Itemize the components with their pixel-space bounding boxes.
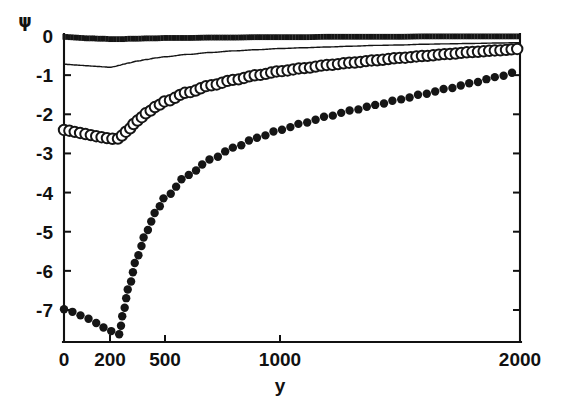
marker-dense-dot bbox=[252, 34, 255, 40]
marker-dense-dot bbox=[458, 33, 461, 39]
marker-dense-dot bbox=[452, 33, 455, 39]
marker-dense-dot bbox=[230, 35, 233, 41]
marker-filled-dot bbox=[198, 160, 206, 168]
marker-dense-dot bbox=[246, 34, 249, 40]
marker-dense-dot bbox=[203, 35, 206, 41]
marker-dense-dot bbox=[455, 33, 458, 39]
marker-dense-dot bbox=[371, 34, 374, 40]
marker-filled-dot bbox=[508, 69, 516, 77]
marker-dense-dot bbox=[79, 35, 82, 41]
marker-filled-dot bbox=[286, 123, 294, 131]
marker-dense-dot bbox=[421, 33, 424, 39]
marker-filled-dot bbox=[229, 143, 237, 151]
marker-filled-dot bbox=[245, 136, 253, 144]
marker-filled-dot bbox=[294, 120, 302, 128]
marker-dense-dot bbox=[377, 34, 380, 40]
marker-dense-dot bbox=[508, 33, 511, 39]
marker-dense-dot bbox=[119, 36, 122, 42]
marker-dense-dot bbox=[351, 34, 354, 40]
marker-dense-dot bbox=[105, 36, 108, 42]
marker-dense-dot bbox=[228, 35, 231, 41]
marker-filled-dot bbox=[414, 91, 422, 99]
marker-dense-dot bbox=[187, 35, 190, 41]
x-tick-label: 500 bbox=[149, 349, 181, 370]
marker-filled-dot bbox=[177, 175, 185, 183]
marker-dense-dot bbox=[138, 36, 141, 42]
y-tick-label: -5 bbox=[36, 222, 53, 243]
marker-dense-dot bbox=[244, 34, 247, 40]
marker-dense-dot bbox=[312, 34, 315, 40]
marker-filled-dot bbox=[345, 106, 353, 114]
marker-filled-dot bbox=[311, 116, 319, 124]
marker-dense-dot bbox=[491, 33, 494, 39]
marker-filled-dot bbox=[431, 87, 439, 95]
marker-dense-dot bbox=[419, 34, 422, 40]
marker-dense-dot bbox=[489, 33, 492, 39]
marker-dense-dot bbox=[87, 35, 90, 41]
marker-filled-dot bbox=[303, 118, 311, 126]
marker-filled-dot bbox=[491, 73, 499, 81]
x-tick-label: 2000 bbox=[499, 349, 541, 370]
marker-dense-dot bbox=[332, 34, 335, 40]
marker-dense-dot bbox=[238, 35, 241, 41]
marker-dense-dot bbox=[374, 34, 377, 40]
marker-dense-dot bbox=[236, 35, 239, 41]
marker-filled-dot bbox=[124, 285, 132, 293]
marker-dense-dot bbox=[323, 34, 326, 40]
marker-filled-dot bbox=[261, 131, 269, 139]
marker-dense-dot bbox=[166, 35, 169, 41]
marker-dense-dot bbox=[360, 34, 363, 40]
marker-dense-dot bbox=[111, 36, 114, 42]
chart-figure: 0-1-2-3-4-5-6-7020050010002000yψ bbox=[0, 0, 564, 406]
y-tick-label: -7 bbox=[36, 300, 53, 321]
marker-filled-dot bbox=[76, 311, 84, 319]
marker-filled-dot bbox=[127, 277, 135, 285]
marker-dense-dot bbox=[254, 34, 257, 40]
marker-dense-dot bbox=[241, 35, 244, 41]
marker-filled-dot bbox=[237, 141, 245, 149]
marker-dense-dot bbox=[103, 36, 106, 42]
marker-dense-dot bbox=[402, 34, 405, 40]
marker-filled-dot bbox=[99, 323, 107, 331]
marker-dense-dot bbox=[511, 33, 514, 39]
marker-dense-dot bbox=[337, 34, 340, 40]
marker-dense-dot bbox=[149, 35, 152, 41]
marker-filled-dot bbox=[388, 97, 396, 105]
marker-filled-dot bbox=[150, 209, 158, 217]
marker-filled-dot bbox=[269, 127, 277, 135]
marker-filled-dot bbox=[167, 190, 175, 198]
marker-dense-dot bbox=[357, 34, 360, 40]
marker-filled-dot bbox=[134, 251, 142, 259]
marker-dense-dot bbox=[477, 33, 480, 39]
marker-filled-dot bbox=[205, 155, 213, 163]
marker-dense-dot bbox=[396, 34, 399, 40]
marker-filled-dot bbox=[397, 95, 405, 103]
marker-dense-dot bbox=[84, 35, 87, 41]
marker-dense-dot bbox=[449, 33, 452, 39]
marker-dense-dot bbox=[298, 34, 301, 40]
marker-dense-dot bbox=[514, 33, 517, 39]
marker-dense-dot bbox=[441, 33, 444, 39]
marker-dense-dot bbox=[122, 36, 125, 42]
marker-dense-dot bbox=[321, 34, 324, 40]
marker-dense-dot bbox=[193, 35, 196, 41]
marker-dense-dot bbox=[68, 34, 71, 40]
marker-filled-dot bbox=[185, 171, 193, 179]
marker-dense-dot bbox=[309, 34, 312, 40]
marker-dense-dot bbox=[171, 35, 174, 41]
marker-dense-dot bbox=[410, 34, 413, 40]
marker-filled-dot bbox=[474, 78, 482, 86]
marker-dense-dot bbox=[293, 34, 296, 40]
marker-dense-dot bbox=[201, 35, 204, 41]
marker-dense-dot bbox=[95, 36, 98, 42]
marker-dense-dot bbox=[281, 34, 284, 40]
marker-filled-dot bbox=[439, 85, 447, 93]
marker-dense-dot bbox=[279, 34, 282, 40]
marker-filled-dot bbox=[329, 111, 337, 119]
marker-dense-dot bbox=[405, 34, 408, 40]
marker-dense-dot bbox=[168, 35, 171, 41]
marker-dense-dot bbox=[463, 33, 466, 39]
y-tick-label: -3 bbox=[36, 143, 53, 164]
marker-dense-dot bbox=[399, 34, 402, 40]
marker-dense-dot bbox=[472, 33, 475, 39]
